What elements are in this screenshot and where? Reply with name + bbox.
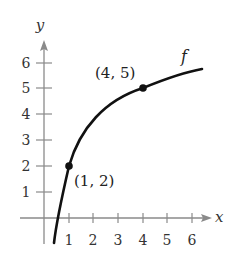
y-tick-label: 2 [22,158,31,174]
y-tick-label: 5 [22,80,31,96]
point-4-5 [139,84,147,92]
point-label-1-2: (1, 2) [74,172,114,190]
point-1-2 [65,162,73,170]
y-tick-label: 1 [22,184,31,200]
x-tick-label: 6 [188,232,197,248]
y-tick-label: 6 [22,55,31,71]
x-tick-label: 3 [114,232,123,248]
y-tick-label: 3 [22,132,31,148]
x-tick-label: 5 [163,232,172,248]
function-graph: 1 2 3 4 5 6 1 2 3 4 5 6 x y (1, 2) (4, 5… [0,0,238,256]
y-axis-label: y [35,16,45,34]
x-tick-labels: 1 2 3 4 5 6 [65,232,197,248]
x-tick-label: 2 [89,232,98,248]
curve-f [54,69,202,243]
x-tick-label: 4 [139,232,148,248]
point-label-4-5: (4, 5) [95,64,135,82]
y-tick-label: 4 [22,106,31,122]
x-axis-label: x [215,208,224,226]
function-label-f: f [180,47,190,66]
y-tick-labels: 1 2 3 4 5 6 [22,55,31,200]
x-tick-label: 1 [65,232,74,248]
